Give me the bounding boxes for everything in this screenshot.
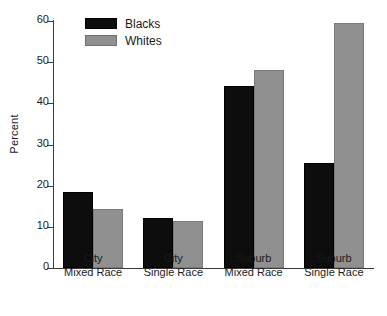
chart-legend: BlacksWhites	[85, 15, 205, 49]
y-axis-tick-label: 20	[37, 178, 49, 190]
y-axis-tick-label: 60	[37, 13, 49, 25]
x-axis-group-label-line: Single Race	[274, 266, 387, 280]
legend-swatch-blacks	[85, 18, 117, 29]
x-axis-group-label: SuburbSingle Race	[274, 252, 387, 279]
y-axis-tick-label: 10	[37, 219, 49, 231]
bar	[254, 70, 284, 268]
y-axis-line	[53, 20, 54, 269]
legend-label: Whites	[125, 34, 162, 48]
y-axis-tick-label: 40	[37, 95, 49, 107]
bar	[334, 23, 364, 268]
legend-label: Blacks	[125, 17, 160, 31]
bar-chart-figure: Percent 0102030405060 CityMixed RaceCity…	[0, 0, 387, 316]
x-axis-group-label-line: Suburb	[274, 252, 387, 266]
legend-swatch-whites	[85, 35, 117, 46]
bar	[224, 86, 254, 268]
y-axis-tick-label: 50	[37, 54, 49, 66]
page-bleed-text	[0, 307, 387, 316]
y-axis-label: Percent	[8, 94, 20, 174]
y-axis-tick-label: 30	[37, 137, 49, 149]
legend-item: Blacks	[85, 15, 205, 32]
plot-area: 0102030405060	[53, 21, 374, 268]
legend-item: Whites	[85, 32, 205, 49]
